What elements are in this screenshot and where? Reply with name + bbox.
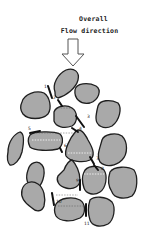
grain — [75, 84, 99, 104]
path-label-9: 9 — [76, 178, 79, 183]
grain — [57, 160, 80, 189]
path-label-5: 5 — [28, 126, 31, 131]
grain-flow-diagram: 1 2 3 4 5 6 7 8 9 10 11 — [0, 0, 163, 240]
grain — [22, 182, 45, 211]
path-label-7: 7 — [96, 156, 99, 161]
grain — [89, 197, 115, 226]
path-label-6: 6 — [64, 143, 67, 148]
grain — [21, 92, 50, 118]
path-label-8: 8 — [101, 166, 104, 171]
path-label-11: 11 — [84, 221, 90, 226]
path-label-4: 4 — [79, 126, 82, 131]
grains — [7, 69, 136, 226]
grain — [98, 134, 126, 166]
path-label-3: 3 — [87, 114, 90, 119]
path-label-10: 10 — [56, 199, 62, 204]
grain — [54, 106, 77, 127]
grain — [7, 132, 23, 165]
path-label-1: 1 — [44, 84, 47, 89]
path-label-2: 2 — [53, 95, 56, 100]
grain — [96, 101, 120, 128]
grain — [29, 132, 63, 150]
grain — [109, 167, 137, 198]
flow-direction-arrow-icon — [62, 39, 84, 66]
